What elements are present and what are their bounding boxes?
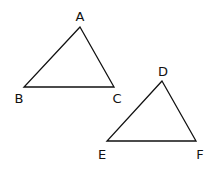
triangle-def <box>107 81 196 141</box>
vertex-label-c: C <box>112 91 121 106</box>
vertex-label-d: D <box>158 64 168 79</box>
triangle-abc <box>24 27 114 87</box>
vertex-label-a: A <box>76 9 85 24</box>
vertex-label-f: F <box>196 147 203 162</box>
vertex-label-e: E <box>98 147 106 162</box>
vertex-label-b: B <box>15 91 24 106</box>
triangles-diagram: A B C D E F <box>0 0 212 173</box>
